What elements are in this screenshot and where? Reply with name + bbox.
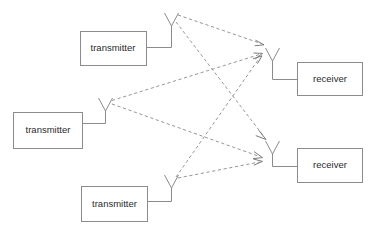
transmitter-3-antenna-icon xyxy=(165,175,179,202)
path-tx3-rx1 xyxy=(176,56,262,177)
transmitter-1[interactable]: transmitter xyxy=(81,13,179,66)
receiver-2-label: receiver xyxy=(313,159,347,170)
transmitter-2-label: transmitter xyxy=(26,124,71,135)
transmitter-3-label: transmitter xyxy=(92,198,137,209)
path-tx3-rx2 xyxy=(178,159,263,178)
receiver-1-label: receiver xyxy=(313,73,347,84)
path-line xyxy=(176,22,264,136)
path-tx1-rx2 xyxy=(176,22,266,140)
transmitter-3[interactable]: transmitter xyxy=(82,175,179,222)
receiver-1-antenna-icon xyxy=(266,48,280,80)
path-line xyxy=(112,104,260,157)
path-line xyxy=(178,15,261,44)
path-tx2-rx2 xyxy=(112,104,263,159)
receiver-1[interactable]: receiver xyxy=(266,48,363,96)
receiver-2[interactable]: receiver xyxy=(266,141,363,183)
transmitter-2-antenna-icon xyxy=(99,98,113,124)
transmitter-1-antenna-icon xyxy=(165,13,179,48)
receiver-2-antenna-icon xyxy=(266,141,280,167)
diagram-canvas: transmitter transmitter transmitter xyxy=(0,0,372,231)
path-line xyxy=(176,58,260,177)
path-line xyxy=(178,162,260,178)
transmitter-2[interactable]: transmitter xyxy=(14,98,113,149)
arrow-head-icon xyxy=(253,56,262,64)
transmitter-1-label: transmitter xyxy=(91,42,136,53)
mimo-channel-diagram: transmitter transmitter transmitter xyxy=(0,0,372,231)
arrow-head-icon xyxy=(255,40,264,46)
arrow-head-icon xyxy=(256,130,266,139)
